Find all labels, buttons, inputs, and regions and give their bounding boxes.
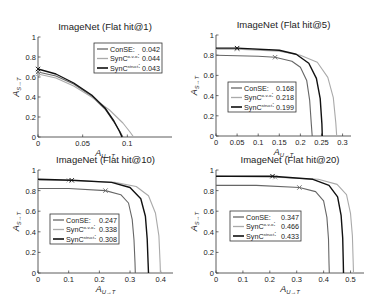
y-axis-label: AS→T — [11, 211, 22, 232]
x-tick-label: 0.2 — [94, 275, 104, 284]
y-axis-label: AS→T — [11, 77, 22, 98]
legend-value: 0.308 — [99, 235, 117, 244]
x-tick-label: 0.3 — [125, 275, 135, 284]
y-tick-label: 1 — [32, 166, 36, 175]
x-tick-label: 0.3 — [292, 275, 302, 284]
x-tick-label: 0.2 — [295, 138, 305, 147]
chart-title: ImageNet (Flat hit@20) — [241, 154, 340, 165]
legend-value: 0.338 — [99, 225, 117, 234]
legend-value: 0.433 — [281, 232, 299, 241]
legend: ConSE:0.247SynCo-v-o:0.338SynCstruct:0.3… — [50, 214, 119, 244]
y-tick-label: 0.4 — [204, 228, 214, 237]
figure: ImageNet (Flat hit@1)00.20.40.60.8100.05… — [0, 0, 367, 307]
y-tick-label: 1 — [210, 31, 214, 40]
legend-label: ConSE: — [66, 216, 91, 225]
legend: ConSE:0.168SynCo-v-o:0.218SynCstruct:0.1… — [228, 82, 296, 112]
subplot-2: ImageNet (Flat hit@5)00.20.40.60.8100.05… — [189, 19, 351, 158]
y-tick-label: 0.8 — [26, 53, 36, 62]
chart-title: ImageNet (Flat hit@10) — [56, 154, 155, 165]
y-axis-label: AS→T — [189, 211, 200, 232]
x-tick-label: 0.1 — [63, 275, 73, 284]
y-tick-label: 0.6 — [204, 71, 214, 80]
x-tick-label: 0.15 — [272, 138, 287, 147]
x-tick-label: 0.1 — [122, 139, 132, 148]
legend-value: 0.347 — [281, 213, 299, 222]
x-axis-label: AU→T — [95, 284, 116, 295]
y-tick-label: 0.8 — [26, 187, 36, 196]
legend-label: ConSE: — [244, 84, 269, 93]
x-tick-label: 0.05 — [230, 138, 245, 147]
series-line — [38, 72, 123, 137]
y-tick-label: 0.2 — [26, 248, 36, 257]
legend-value: 0.247 — [99, 216, 117, 225]
y-tick-label: 0.4 — [26, 93, 36, 102]
y-tick-label: 0.2 — [204, 248, 214, 257]
legend: ConSE:0.042SynCo-v-o:0.044SynCstruct:0.0… — [94, 43, 162, 73]
series-line — [38, 74, 134, 137]
legend-value: 0.199 — [276, 103, 294, 112]
x-tick-label: 0.25 — [314, 138, 329, 147]
x-tick-label: 0.4 — [318, 275, 328, 284]
y-tick-label: 1 — [210, 166, 214, 175]
y-tick-label: 0.6 — [26, 207, 36, 216]
y-tick-label: 0.8 — [204, 51, 214, 60]
legend-value: 0.466 — [281, 222, 299, 231]
legend-value: 0.044 — [142, 54, 160, 63]
x-tick-label: 0.05 — [75, 139, 90, 148]
legend-label: ConSE: — [246, 213, 271, 222]
subplot-1: ImageNet (Flat hit@1)00.20.40.60.8100.05… — [11, 21, 172, 159]
legend-value: 0.218 — [276, 93, 294, 102]
subplot-3: ImageNet (Flat hit@10)00.20.40.60.8100.1… — [11, 154, 173, 295]
x-tick-label: 0.5 — [345, 275, 355, 284]
y-tick-label: 0.4 — [204, 92, 214, 101]
legend-value: 0.042 — [142, 45, 160, 54]
legend-value: 0.043 — [142, 64, 160, 73]
legend-value: 0.168 — [276, 84, 294, 93]
y-tick-label: 0.2 — [204, 112, 214, 121]
y-tick-label: 0.4 — [26, 228, 36, 237]
x-tick-label: 0.1 — [253, 138, 263, 147]
x-tick-label: 0 — [214, 138, 218, 147]
x-tick-label: 0 — [214, 275, 218, 284]
y-axis-label: AS→T — [189, 75, 200, 96]
x-tick-label: 0.3 — [337, 138, 347, 147]
x-tick-label: 0.4 — [156, 275, 166, 284]
chart-title: ImageNet (Flat hit@1) — [58, 21, 152, 32]
x-tick-label: 0.1 — [238, 275, 248, 284]
subplot-4: ImageNet (Flat hit@20)00.20.40.60.8100.1… — [189, 154, 364, 295]
chart-title: ImageNet (Flat hit@5) — [237, 19, 331, 30]
x-axis-label: AU→T — [279, 284, 300, 295]
legend: ConSE:0.347SynCo-v-o:0.466SynCstruct:0.4… — [230, 211, 301, 241]
x-tick-label: 0.2 — [265, 275, 275, 284]
y-tick-label: 0.6 — [26, 73, 36, 82]
series-line — [38, 69, 122, 137]
y-tick-label: 0.8 — [204, 187, 214, 196]
y-tick-label: 0.6 — [204, 207, 214, 216]
x-tick-label: 0 — [36, 139, 40, 148]
y-tick-label: 1 — [32, 33, 36, 42]
y-tick-label: 0.2 — [26, 113, 36, 122]
x-tick-label: 0 — [36, 275, 40, 284]
legend-label: ConSE: — [110, 45, 135, 54]
